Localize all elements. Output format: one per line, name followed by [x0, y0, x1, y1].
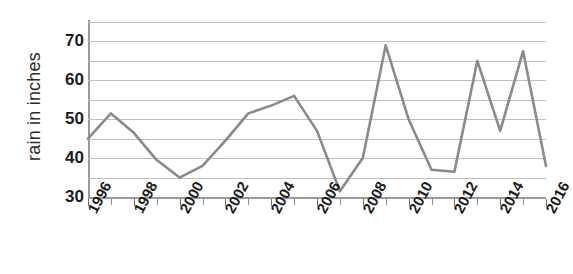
x-tick	[386, 199, 387, 205]
x-tick-label: 2016	[542, 179, 573, 216]
x-axis-tick-labels: 1996199820002002200420062008201020122014…	[88, 206, 546, 274]
x-tick	[432, 199, 433, 205]
y-tick-label: 40	[40, 148, 84, 168]
y-tick-label: 60	[40, 70, 84, 90]
x-tick	[340, 199, 341, 205]
x-tick	[523, 199, 524, 205]
y-tick-label: 50	[40, 109, 84, 129]
plot-area	[88, 22, 546, 197]
x-tick	[477, 199, 478, 205]
data-series-line	[88, 22, 546, 197]
x-tick	[111, 199, 112, 205]
x-tick	[157, 199, 158, 205]
y-axis-tick-labels: 3040506070	[40, 0, 84, 274]
y-tick-label: 70	[40, 31, 84, 51]
x-tick	[203, 199, 204, 205]
y-tick-label: 30	[40, 187, 84, 207]
x-tick	[248, 199, 249, 205]
x-tick	[294, 199, 295, 205]
